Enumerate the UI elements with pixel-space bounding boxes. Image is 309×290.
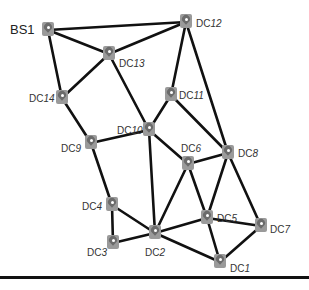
map-pin-icon [214,254,226,268]
label-number: 9 [75,143,81,154]
edge-bs1-dc13 [48,30,109,54]
node-label-dc6: DC6 [181,143,201,154]
label-number: 1 [27,22,34,37]
node-label-bs1: BS1 [10,24,35,35]
edge-bs1-dc14 [48,30,62,98]
map-pin-icon [85,135,97,149]
label-number: 5 [231,213,237,224]
label-prefix: DC [145,247,159,258]
node-label-dc14: DC14 [29,93,55,104]
label-prefix: BS [10,22,27,37]
map-pin-icon [180,14,192,28]
edge-dc6-dc2 [155,164,188,233]
node-label-dc13: DC13 [119,58,145,69]
label-prefix: DC [82,201,96,212]
edge-dc10-dc2 [149,130,155,233]
edge-bs1-dc12 [48,22,186,30]
edge-dc13-dc14 [62,54,109,98]
label-number: 10 [131,125,142,136]
map-pin-icon [42,22,54,36]
label-number: 8 [252,148,258,159]
map-pin-icon [103,46,115,60]
node-label-dc10: DC10 [117,125,143,136]
edge-dc12-dc11 [171,22,186,95]
node-label-dc12: DC12 [196,18,222,29]
label-number: 12 [210,18,221,29]
map-pin-icon [149,225,161,239]
map-pin-icon [255,218,267,232]
node-label-dc11: DC11 [179,90,204,101]
label-prefix: DC [179,90,193,101]
label-number: 6 [195,143,201,154]
label-prefix: DC [196,18,210,29]
map-pin-icon [56,90,68,104]
label-number: 3 [101,247,107,258]
label-number: 13 [133,58,144,69]
map-pin-icon [107,235,119,249]
label-number: 1 [244,263,250,274]
map-pin-icon [143,122,155,136]
edge-dc8-dc5 [207,153,228,218]
node-label-dc2: DC2 [145,247,165,258]
edge-dc9-dc4 [91,143,112,205]
label-prefix: DC [29,93,43,104]
map-pin-icon [222,145,234,159]
node-label-dc9: DC9 [61,143,81,154]
label-prefix: DC [61,143,75,154]
node-label-dc1: DC1 [230,263,250,274]
label-prefix: DC [270,224,284,235]
node-label-dc5: DC5 [217,213,237,224]
label-number: 11 [193,90,203,101]
node-label-dc3: DC3 [87,247,107,258]
label-number: 14 [43,93,54,104]
node-label-dc4: DC4 [82,201,102,212]
label-prefix: DC [181,143,195,154]
map-pin-icon [201,210,213,224]
label-number: 7 [284,224,290,235]
map-pin-icon [182,156,194,170]
label-number: 4 [96,201,102,212]
bottom-rule [0,276,309,279]
label-number: 2 [159,247,165,258]
map-pin-icon [165,87,177,101]
label-prefix: DC [217,213,231,224]
label-prefix: DC [119,58,133,69]
map-pin-icon [106,197,118,211]
label-prefix: DC [87,247,101,258]
edge-dc2-dc5 [155,218,207,233]
label-prefix: DC [238,148,252,159]
node-label-dc7: DC7 [270,224,290,235]
label-prefix: DC [230,263,244,274]
node-label-dc8: DC8 [238,148,258,159]
label-prefix: DC [117,125,131,136]
